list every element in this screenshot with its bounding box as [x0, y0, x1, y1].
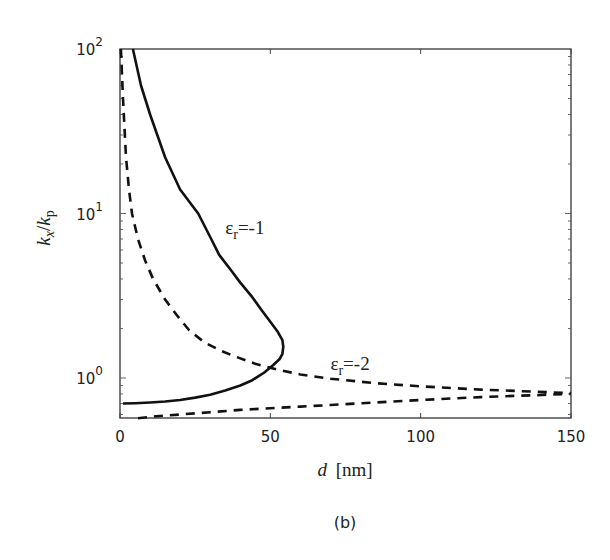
figure-caption: (b) — [334, 513, 357, 532]
x-tick-label: 100 — [406, 428, 435, 446]
series-labels: εr=-1εr=-2 — [225, 217, 369, 378]
x-axis-label: d [nm] — [317, 459, 372, 480]
x-axis-tick-labels: 050100150 — [115, 428, 585, 446]
x-tick-label: 0 — [115, 428, 125, 446]
y-tick-label: 102 — [76, 35, 103, 59]
y-label-sub-p: p — [42, 210, 57, 217]
y-axis-tick-labels: 100101102 — [76, 35, 103, 388]
label-eps-minus-1: εr=-1 — [225, 217, 264, 242]
label-eps-minus-2: εr=-2 — [330, 353, 369, 378]
y-tick-label: 101 — [76, 200, 103, 224]
chart-canvas: 050100150 100101102 εr=-1εr=-2 d [nm] kx… — [0, 0, 610, 560]
y-axis-label: kx/kp — [33, 210, 57, 245]
x-tick-label: 150 — [557, 428, 586, 446]
x-axis-label-var: d — [317, 459, 327, 480]
y-tick-label: 100 — [76, 364, 103, 388]
x-tick-label: 50 — [261, 428, 280, 446]
x-axis-label-unit: [nm] — [336, 459, 373, 480]
